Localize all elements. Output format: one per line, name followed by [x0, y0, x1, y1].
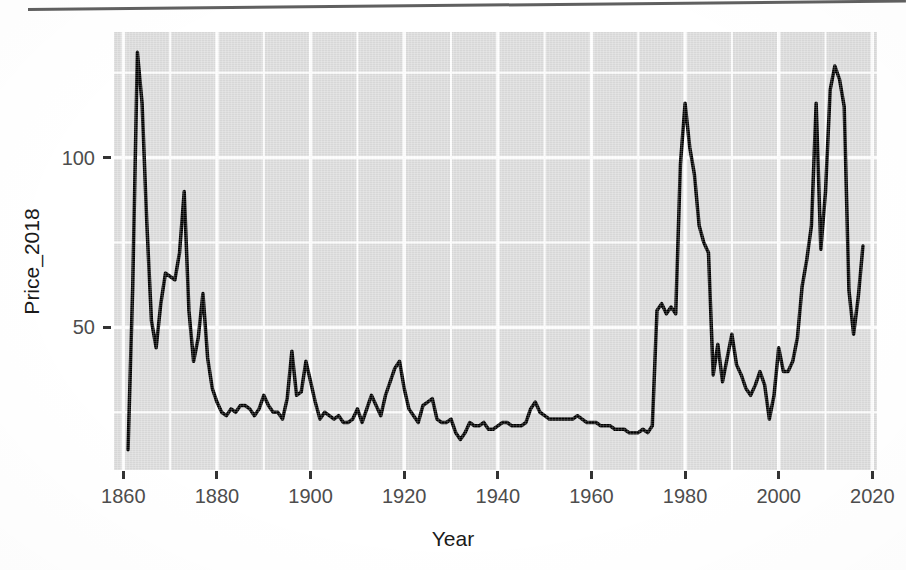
x-tick-label: 1980 [645, 486, 725, 506]
y-tick-label: 100 [0, 148, 95, 168]
x-tick-mark [215, 471, 218, 479]
x-tick-mark [777, 471, 780, 479]
x-tick-label: 2000 [739, 486, 819, 506]
x-axis-title: Year [0, 528, 906, 549]
x-tick-label: 1900 [271, 486, 351, 506]
x-tick-label: 2020 [832, 486, 906, 506]
x-tick-mark [496, 471, 499, 479]
plot-area [114, 32, 877, 470]
minor-gridlines [114, 32, 877, 470]
x-tick-mark [684, 471, 687, 479]
y-tick-mark [103, 326, 111, 329]
x-tick-mark [403, 471, 406, 479]
major-gridlines [114, 32, 877, 470]
y-tick-label: 50 [0, 317, 95, 337]
x-tick-mark [871, 471, 874, 479]
chart-figure: Price_2018 50100 Year 186018801900192019… [0, 0, 906, 570]
x-tick-mark [309, 471, 312, 479]
x-tick-mark [590, 471, 593, 479]
x-tick-label: 1940 [458, 486, 538, 506]
x-tick-label: 1860 [83, 486, 163, 506]
x-tick-label: 1920 [364, 486, 444, 506]
x-tick-mark [122, 471, 125, 479]
plot-panel [114, 32, 877, 470]
price-series-line [128, 52, 863, 449]
x-tick-label: 1880 [177, 486, 257, 506]
y-tick-mark [103, 156, 111, 159]
x-tick-label: 1960 [551, 486, 631, 506]
